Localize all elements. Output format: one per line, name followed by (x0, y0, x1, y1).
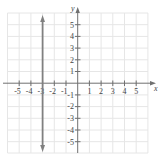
x-tick-label: -4 (26, 87, 33, 96)
y-axis-arrow-icon (76, 7, 80, 13)
y-tick-label: 1 (70, 67, 74, 76)
x-tick-label: -5 (14, 87, 21, 96)
y-tick-label: 2 (70, 56, 74, 65)
y-tick-label: -4 (67, 126, 74, 135)
y-tick-label: 3 (70, 44, 74, 53)
y-axis: 5 4 3 2 1 -1 -2 -3 -4 -5 y (67, 4, 80, 153)
y-axis-label: y (70, 4, 75, 13)
y-tick-label: 5 (70, 21, 74, 30)
x-tick-label: 1 (87, 87, 91, 96)
x-axis-label: x (153, 84, 158, 93)
x-tick-label: 3 (111, 87, 115, 96)
line-arrow-up-icon (40, 15, 45, 22)
y-tick-label: -1 (67, 91, 74, 100)
x-tick-label: 5 (134, 87, 138, 96)
x-axis: -5 -4 -3 -2 -1 1 2 3 4 5 x (3, 81, 158, 97)
y-tick-label: 4 (70, 32, 74, 41)
line-arrow-down-icon (40, 145, 45, 152)
y-tick-label: -2 (67, 102, 74, 111)
x-tick-label: 2 (99, 87, 103, 96)
x-tick-label: 4 (123, 87, 127, 96)
x-tick-label: -2 (49, 87, 56, 96)
coordinate-plane: -5 -4 -3 -2 -1 1 2 3 4 5 x (0, 0, 158, 159)
y-tick-label: -3 (67, 114, 74, 123)
y-tick-label: -5 (67, 138, 74, 147)
